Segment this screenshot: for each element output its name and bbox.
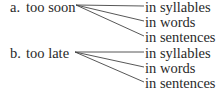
- branch-b-sentences: in sentences: [145, 76, 215, 91]
- group-a-text: too soon: [26, 0, 76, 15]
- branch-b-syllables: in syllables: [145, 46, 211, 61]
- group-b-text: too late: [26, 46, 69, 61]
- branch-a-syllables: in syllables: [145, 0, 211, 15]
- branch-a-sentences: in sentences: [145, 30, 215, 45]
- group-b-label: b.: [10, 46, 21, 61]
- branch-b-words: in words: [145, 61, 195, 76]
- group-a-label: a.: [10, 0, 20, 15]
- branch-a-words: in words: [145, 15, 195, 30]
